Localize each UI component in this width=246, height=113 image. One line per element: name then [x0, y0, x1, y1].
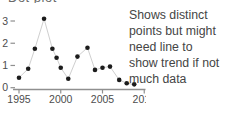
- data-point-dot: [100, 65, 105, 70]
- data-point-dot: [93, 68, 98, 73]
- data-point-dot: [50, 46, 55, 51]
- data-point-dot: [66, 77, 71, 82]
- data-point-dot: [75, 54, 80, 59]
- data-point-dot: [26, 67, 31, 72]
- dot-plot-chart: 19952000200520100123: [0, 0, 146, 113]
- trend-line: [19, 19, 134, 85]
- data-point-dot: [54, 55, 59, 60]
- annotation-line: show trend if not: [129, 55, 245, 71]
- y-axis-tick-label: 1: [2, 59, 8, 71]
- x-axis-tick-label: 2000: [49, 93, 73, 105]
- x-axis-tick-label: 2010: [133, 93, 146, 105]
- data-point-dot: [42, 16, 47, 21]
- data-point-dot: [17, 75, 22, 80]
- data-point-dot: [58, 65, 63, 70]
- annotation-line: points but might: [129, 23, 245, 39]
- data-point-dot: [33, 46, 38, 51]
- chart-suggestion-card: Dot plot 19952000200520100123 Shows dist…: [0, 0, 246, 113]
- annotation-line: Shows distinct: [129, 7, 245, 23]
- x-axis-tick-label: 1995: [7, 93, 31, 105]
- y-axis-tick-label: 2: [2, 37, 8, 49]
- chart-annotation: Shows distinct points but might need lin…: [129, 7, 245, 87]
- data-point-dot: [117, 78, 122, 83]
- y-axis-tick-label: 0: [2, 81, 8, 93]
- y-axis-tick-label: 3: [2, 15, 8, 27]
- data-point-dot: [85, 45, 90, 50]
- annotation-line: much data: [129, 71, 245, 87]
- x-axis-tick-label: 2005: [91, 93, 115, 105]
- annotation-line: need line to: [129, 39, 245, 55]
- data-point-dot: [108, 64, 113, 69]
